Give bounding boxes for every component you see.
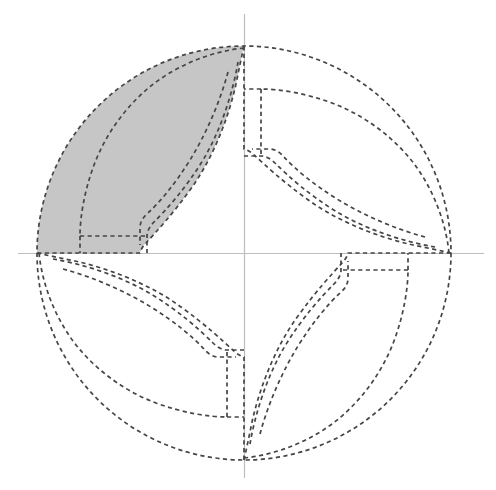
arm-top-right — [244, 46, 451, 253]
figure-root: Dashed spiral pinwheel partition of a di… — [0, 0, 496, 490]
arm-spiral-nest-2 — [260, 261, 348, 434]
diagram-canvas — [0, 0, 496, 490]
arm-bottom-left — [37, 253, 244, 460]
arm-spiral-nest-outer — [39, 253, 227, 417]
arm-bottom-right — [244, 253, 451, 460]
arm-spiral-nest-outer — [244, 270, 408, 458]
arm-spiral-nest-outer — [261, 89, 449, 253]
arm-spiral-nest-2 — [252, 149, 425, 237]
arm-spiral-nest-2 — [63, 269, 236, 357]
